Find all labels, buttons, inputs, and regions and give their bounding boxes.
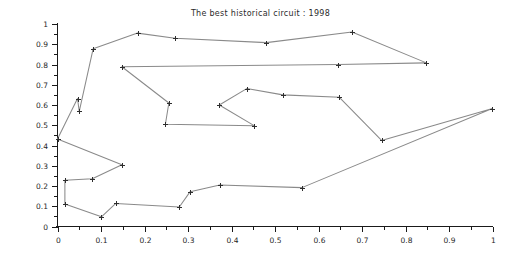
city-marker — [380, 138, 385, 143]
circuit-tour-path — [58, 32, 492, 217]
x-tick-label: 0.1 — [96, 236, 108, 245]
x-axis-tick-labels: 00.10.20.30.40.50.60.70.80.91 — [56, 236, 496, 245]
city-marker — [63, 178, 68, 183]
y-tick-label: 1 — [43, 20, 48, 29]
city-marker — [245, 87, 250, 92]
city-marker — [350, 30, 355, 35]
city-marker — [281, 93, 286, 98]
x-axis: 00.10.20.30.40.50.60.70.80.91 — [56, 227, 496, 246]
y-tick-label: 0.8 — [36, 61, 48, 70]
tsp-circuit-plot: 00.10.20.30.40.50.60.70.80.91 00.10.20.3… — [0, 0, 521, 254]
x-tick-label: 0.7 — [357, 236, 369, 245]
x-tick-label: 0.4 — [227, 236, 239, 245]
city-marker — [120, 65, 125, 70]
city-marker — [77, 109, 82, 114]
city-marker — [120, 163, 125, 168]
y-tick-label: 0 — [43, 223, 48, 232]
city-marker — [63, 202, 68, 207]
city-marker — [218, 183, 223, 188]
y-tick-label: 0.6 — [36, 101, 48, 110]
city-marker — [264, 41, 269, 46]
city-markers-group — [56, 30, 495, 220]
city-marker — [56, 137, 61, 142]
y-tick-label: 0.4 — [36, 142, 48, 151]
x-tick-label: 0.3 — [183, 236, 195, 245]
x-tick-label: 0.5 — [270, 236, 282, 245]
y-tick-label: 0.3 — [36, 162, 48, 171]
y-tick-label: 0.7 — [36, 81, 48, 90]
x-tick-label: 0.2 — [140, 236, 152, 245]
city-marker — [173, 36, 178, 41]
city-marker — [136, 31, 141, 36]
x-tick-label: 0.9 — [444, 236, 456, 245]
x-tick-label: 0.8 — [401, 236, 413, 245]
y-tick-label: 0.5 — [36, 121, 48, 130]
city-marker — [490, 107, 495, 112]
y-axis-tick-labels: 00.10.20.30.40.50.60.70.80.91 — [36, 20, 48, 232]
y-tick-label: 0.9 — [36, 40, 48, 49]
city-marker — [177, 205, 182, 210]
y-axis: 00.10.20.30.40.50.60.70.80.91 — [36, 20, 57, 232]
y-tick-label: 0.1 — [36, 202, 48, 211]
city-marker — [163, 122, 168, 127]
x-tick-label: 0.6 — [314, 236, 326, 245]
city-marker — [114, 201, 119, 206]
y-tick-label: 0.2 — [36, 182, 48, 191]
x-tick-label: 1 — [491, 236, 496, 245]
x-tick-label: 0 — [56, 236, 61, 245]
city-marker — [336, 63, 341, 68]
chart-container: The best historical circuit : 1998 00.10… — [0, 0, 521, 254]
